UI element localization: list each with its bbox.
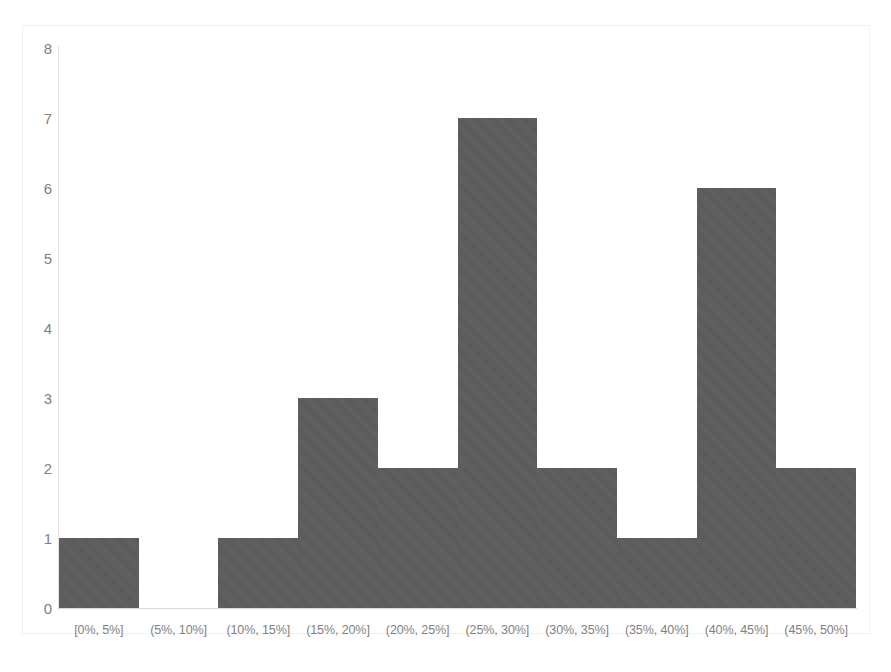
bars-layer [59,48,856,608]
value-axis-labels: 876543210 [6,0,52,672]
histogram-bar [776,468,856,608]
category-axis-tick-label: (15%, 20%] [298,617,378,643]
histogram-bar [378,468,458,608]
histogram-bar [59,538,139,608]
histogram-bar [458,118,537,608]
category-axis-tick-label: (20%, 25%] [378,617,458,643]
category-axis-tick-label: (35%, 40%] [617,617,697,643]
value-axis-tick-label: 3 [18,391,52,406]
histogram-bar [218,538,298,608]
category-axis-tick-label: [0%, 5%] [59,617,139,643]
category-axis-tick-label: (5%, 10%] [139,617,219,643]
value-axis-tick-label: 6 [18,181,52,196]
value-axis-tick-label: 0 [18,601,52,616]
category-axis-tick-label: (10%, 15%] [218,617,298,643]
histogram-bar [298,398,378,608]
value-axis-tick-label: 2 [18,461,52,476]
category-axis-tick-label: (30%, 35%] [537,617,617,643]
value-axis-tick-label: 8 [18,41,52,56]
histogram-bar [697,188,776,608]
value-axis-tick-label: 5 [18,251,52,266]
histogram-bar [617,538,697,608]
plot-area [59,48,856,608]
histogram-chart: 876543210 [0%, 5%](5%, 10%](10%, 15%](15… [0,0,891,672]
value-axis-tick-label: 4 [18,321,52,336]
value-axis-tick-label: 7 [18,111,52,126]
category-axis-labels: [0%, 5%](5%, 10%](10%, 15%](15%, 20%](20… [59,617,856,643]
histogram-bar [537,468,617,608]
category-axis-tick-label: (40%, 45%] [697,617,777,643]
category-axis-line [58,608,857,609]
category-axis-tick-label: (45%, 50%] [776,617,856,643]
category-axis-tick-label: (25%, 30%] [458,617,538,643]
value-axis-tick-label: 1 [18,531,52,546]
